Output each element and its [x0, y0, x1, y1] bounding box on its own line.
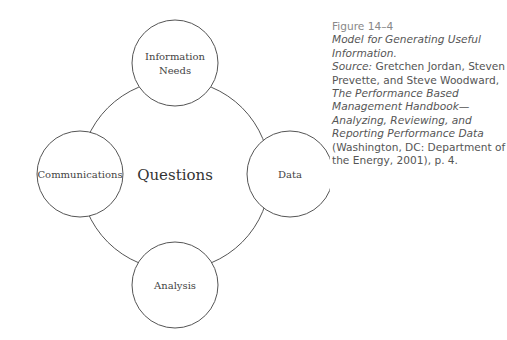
- source-book-title: The Performance Based Management Handboo…: [332, 87, 484, 139]
- figure-title: Model for Generating Useful Information.: [332, 33, 507, 60]
- node-label-needs: Needs: [159, 65, 191, 76]
- figure-caption: Figure 14–4 Model for Generating Useful …: [332, 20, 507, 167]
- center-label: Questions: [137, 166, 213, 184]
- node-label-analysis: Analysis: [153, 280, 196, 291]
- source-publication: (Washington, DC: Department of the Energ…: [332, 141, 505, 166]
- cycle-diagram: Questions Information Needs Data Analysi…: [0, 0, 330, 340]
- source-label: Source:: [332, 60, 372, 72]
- node-label-information: Information: [145, 51, 206, 62]
- node-circle-information-needs: [132, 20, 218, 106]
- figure-number: Figure 14–4: [332, 20, 507, 33]
- node-label-communications: Communications: [37, 169, 122, 180]
- node-label-data: Data: [278, 169, 302, 180]
- figure-source: Source: Gretchen Jordan, Steven Prevette…: [332, 60, 507, 167]
